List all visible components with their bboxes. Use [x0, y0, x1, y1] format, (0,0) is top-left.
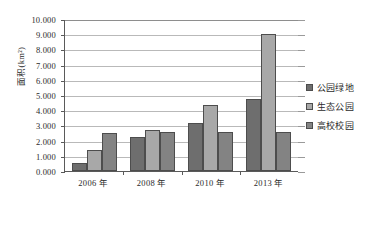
bar-chart: 0.0001.0002.0003.0004.0005.0006.0007.000… — [0, 0, 369, 227]
bar — [87, 150, 102, 171]
x-axis-tick-label: 2013 年 — [240, 176, 299, 188]
x-axis-tick — [123, 171, 124, 175]
y-axis-tick-label: 6.000 — [36, 76, 56, 86]
bar — [145, 130, 160, 171]
x-axis-tick-label: 2008 年 — [123, 176, 182, 188]
y-axis-tick-label: 1.000 — [36, 152, 56, 162]
bar-group — [65, 20, 123, 171]
y-axis-tick-right — [298, 66, 305, 67]
bar — [276, 132, 291, 171]
y-axis-tick-label: 0.000 — [36, 167, 56, 177]
legend-swatch-icon — [306, 122, 313, 129]
y-axis-tick-right — [298, 81, 305, 82]
y-axis-tick-label: 2.000 — [36, 137, 56, 147]
y-axis-tick-labels: 0.0001.0002.0003.0004.0005.0006.0007.000… — [0, 20, 62, 172]
legend-label: 公园绿地 — [317, 81, 354, 94]
legend-label: 生态公园 — [317, 100, 354, 113]
bar — [203, 105, 218, 171]
x-axis-tick-label: 2006 年 — [64, 176, 123, 188]
bar — [102, 133, 117, 171]
legend-swatch-icon — [306, 103, 313, 110]
y-axis-tick-right — [298, 111, 305, 112]
y-axis-tick-right — [298, 142, 305, 143]
bar-group — [182, 20, 240, 171]
legend: 公园绿地生态公园高校校园 — [306, 81, 354, 132]
y-axis-tick-label: 3.000 — [36, 121, 56, 131]
bar — [130, 137, 145, 171]
y-axis-tick-right — [298, 96, 305, 97]
legend-item: 公园绿地 — [306, 81, 354, 94]
legend-item: 高校校园 — [306, 119, 354, 132]
bar — [218, 132, 233, 171]
y-axis-tick-label: 4.000 — [36, 106, 56, 116]
plot-area — [64, 20, 298, 172]
x-axis-tick — [240, 171, 241, 175]
bar-group — [240, 20, 298, 171]
x-axis-tick-labels: 2006 年2008 年2010 年2013 年 — [64, 176, 298, 188]
y-axis-title: 面积(km²) — [14, 47, 26, 86]
y-axis-tick-right — [298, 126, 305, 127]
x-axis-tick — [182, 171, 183, 175]
y-axis-tick-label: 7.000 — [36, 61, 56, 71]
bar-group — [123, 20, 181, 171]
y-axis-tick-right — [298, 157, 305, 158]
bar — [246, 99, 261, 171]
bar — [188, 123, 203, 171]
y-axis-tick-right — [298, 20, 305, 21]
bar — [261, 34, 276, 171]
legend-swatch-icon — [306, 84, 313, 91]
y-axis-tick-right — [298, 172, 305, 173]
legend-label: 高校校园 — [317, 119, 354, 132]
y-axis-tick-label: 9.000 — [36, 30, 56, 40]
x-axis-tick-label: 2010 年 — [181, 176, 240, 188]
bar — [72, 163, 87, 171]
bar — [160, 132, 175, 171]
y-axis-tick-label: 5.000 — [36, 91, 56, 101]
y-axis-tick-right — [298, 35, 305, 36]
bar-groups — [65, 20, 298, 171]
y-axis-tick-right — [298, 50, 305, 51]
y-axis-tick-label: 10.000 — [31, 15, 56, 25]
y-axis-tick — [61, 172, 65, 173]
y-axis-tick-label: 8.000 — [36, 45, 56, 55]
legend-item: 生态公园 — [306, 100, 354, 113]
